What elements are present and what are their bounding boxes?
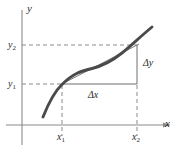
y-axis-label: y bbox=[27, 3, 32, 14]
graph-canvas bbox=[0, 0, 177, 153]
figure-container: y x y1 y2 x1 x2 Δx Δy bbox=[0, 0, 177, 153]
tick-label-y1: y1 bbox=[8, 79, 16, 89]
tick-label-x1: x1 bbox=[57, 132, 65, 142]
tick-label-x1-subscript: 1 bbox=[61, 136, 65, 144]
function-curve bbox=[43, 27, 152, 117]
tick-label-y1-subscript: 1 bbox=[12, 83, 16, 91]
tick-label-x2: x2 bbox=[132, 132, 140, 142]
tick-label-x2-subscript: 2 bbox=[136, 136, 140, 144]
delta-x-label: Δx bbox=[88, 90, 98, 100]
tick-label-y2: y2 bbox=[8, 40, 16, 50]
tick-label-y2-subscript: 2 bbox=[12, 44, 16, 52]
delta-y-label: Δy bbox=[143, 58, 153, 68]
x-axis-label: x bbox=[165, 118, 170, 129]
